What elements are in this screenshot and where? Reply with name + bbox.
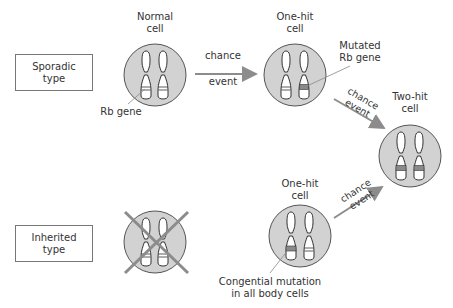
title-line: Normal [125, 11, 185, 23]
normal-cell [124, 44, 186, 106]
label-line: Mutated [330, 40, 390, 52]
title-line: cell [125, 23, 185, 35]
arrow-label-sporadic-second: chance event [340, 85, 381, 121]
title-line: cell [265, 23, 325, 35]
two-hit-title: Two-hit cell [380, 91, 440, 115]
title-line: cell [270, 190, 330, 202]
normal-cell-title: Normal cell [125, 11, 185, 35]
label-line: chance [198, 50, 248, 62]
title-line: cell [380, 103, 440, 115]
mutated-rb-gene-label: Mutated Rb gene [330, 40, 390, 64]
congenital-mutation-label: Congential mutation in all body cells [205, 276, 335, 300]
two-hit-cell [379, 125, 441, 187]
arrow-label-sporadic-first-event: event [198, 76, 248, 88]
title-line: Two-hit [380, 91, 440, 103]
title-line: One-hit [265, 11, 325, 23]
arrow-label-inherited: chance event [338, 177, 379, 214]
label-line: Congential mutation [205, 276, 335, 288]
sporadic-type-label: Sporadic type [29, 61, 79, 85]
sporadic-one-hit-title: One-hit cell [265, 11, 325, 35]
inherited-type-box: Inherited type [15, 225, 93, 262]
label-line: in all body cells [205, 288, 335, 300]
arrow-label-sporadic-first: chance [198, 50, 248, 62]
inherited-crossed-cell [124, 211, 188, 273]
inherited-one-hit-title: One-hit cell [270, 178, 330, 202]
rb-gene-label: Rb gene [96, 106, 146, 118]
label-line: Rb gene [330, 52, 390, 64]
sporadic-type-box: Sporadic type [15, 54, 93, 91]
inherited-type-label: Inherited type [29, 232, 79, 256]
inherited-one-hit-cell [269, 205, 331, 273]
title-line: One-hit [270, 178, 330, 190]
